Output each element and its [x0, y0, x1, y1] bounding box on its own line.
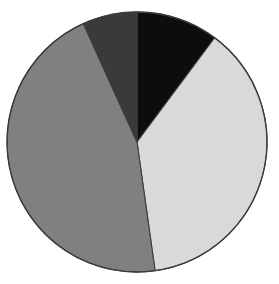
pie-slices-group	[7, 12, 267, 272]
pie-chart-svg	[0, 0, 279, 284]
pie-chart-figure	[0, 0, 279, 284]
